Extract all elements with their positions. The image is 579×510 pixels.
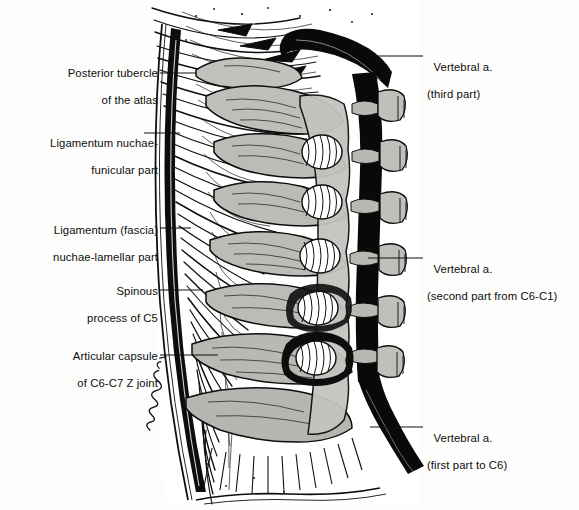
label-line-1: Articular capsule [73,350,158,362]
label-line-1: Vertebral a. [433,263,492,275]
label-line-2: (first part to C6) [427,459,507,472]
label-articular-capsule-of-c6-c7-z-joint: Articular capsule of C6-C7 Z joint [12,337,158,404]
label-vertebral-artery-first-part: Vertebral a. (first part to C6) [427,419,507,486]
label-line-2: process of C5 [12,312,158,325]
label-ligamentum-nuchae-funicular-part: Ligamentum nuchae- funicular part [12,124,158,191]
label-line-1: Ligamentum (fascia) [54,224,158,236]
label-ligamentum-fascia-nuchae-lamellar-part: Ligamentum (fascia) nuchae-lamellar part [12,211,158,278]
label-line-1: Vertebral a. [433,61,492,73]
label-spinous-process-of-c5: Spinous process of C5 [12,272,158,339]
label-line-2: of C6-C7 Z joint [12,377,158,390]
label-vertebral-artery-second-part: Vertebral a. (second part from C6-C1) [427,250,557,317]
label-line-2: funicular part [12,164,158,177]
label-posterior-tubercle-of-the-atlas: Posterior tubercle of the atlas [12,54,158,121]
label-line-1: Ligamentum nuchae- [50,137,158,149]
label-line-1: Vertebral a. [433,432,492,444]
label-line-2: (second part from C6-C1) [427,290,557,303]
label-line-2: of the atlas [12,94,158,107]
label-line-1: Posterior tubercle [68,67,158,79]
label-line-2: nuchae-lamellar part [12,251,158,264]
label-line-2: (third part) [427,88,492,101]
label-vertebral-artery-third-part: Vertebral a. (third part) [427,48,492,115]
label-line-1: Spinous [116,285,158,297]
